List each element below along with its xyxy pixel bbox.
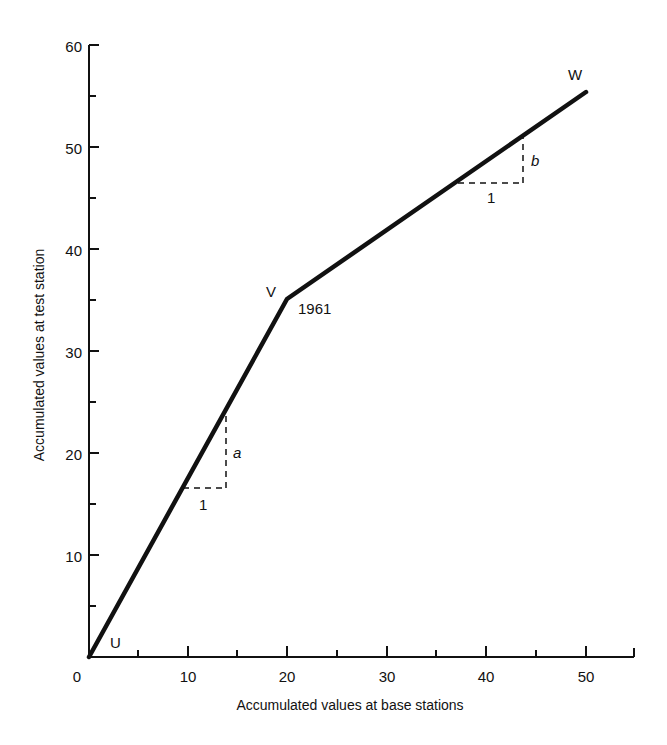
chart: 60 50 40 30 20 10 0 10 20 30 40 50 Accum… bbox=[0, 0, 667, 745]
slope-label-b: b bbox=[531, 152, 539, 169]
double-mass-curve bbox=[89, 92, 586, 657]
x-tick-40: 40 bbox=[478, 668, 495, 685]
x-tick-20: 20 bbox=[279, 668, 296, 685]
y-tick-50: 50 bbox=[65, 140, 82, 157]
slope-label-a: a bbox=[233, 444, 241, 461]
x-axis-title: Accumulated values at base stations bbox=[236, 697, 463, 713]
x-tick-50: 50 bbox=[578, 668, 595, 685]
point-label-u: U bbox=[110, 634, 121, 651]
y-axis bbox=[89, 45, 99, 657]
x-axis bbox=[89, 646, 634, 657]
x-tick-0: 0 bbox=[73, 668, 81, 685]
y-tick-40: 40 bbox=[65, 242, 82, 259]
x-tick-30: 30 bbox=[379, 668, 396, 685]
run-label-a: 1 bbox=[199, 496, 207, 513]
run-label-b: 1 bbox=[487, 189, 495, 206]
point-label-w: W bbox=[568, 66, 583, 83]
x-tick-10: 10 bbox=[180, 668, 197, 685]
y-tick-60: 60 bbox=[65, 38, 82, 55]
y-tick-10: 10 bbox=[65, 548, 82, 565]
y-axis-title: Accumulated values at test station bbox=[31, 249, 47, 461]
break-year-label: 1961 bbox=[298, 300, 331, 317]
point-label-v: V bbox=[266, 283, 276, 300]
y-tick-30: 30 bbox=[65, 344, 82, 361]
y-tick-20: 20 bbox=[65, 446, 82, 463]
